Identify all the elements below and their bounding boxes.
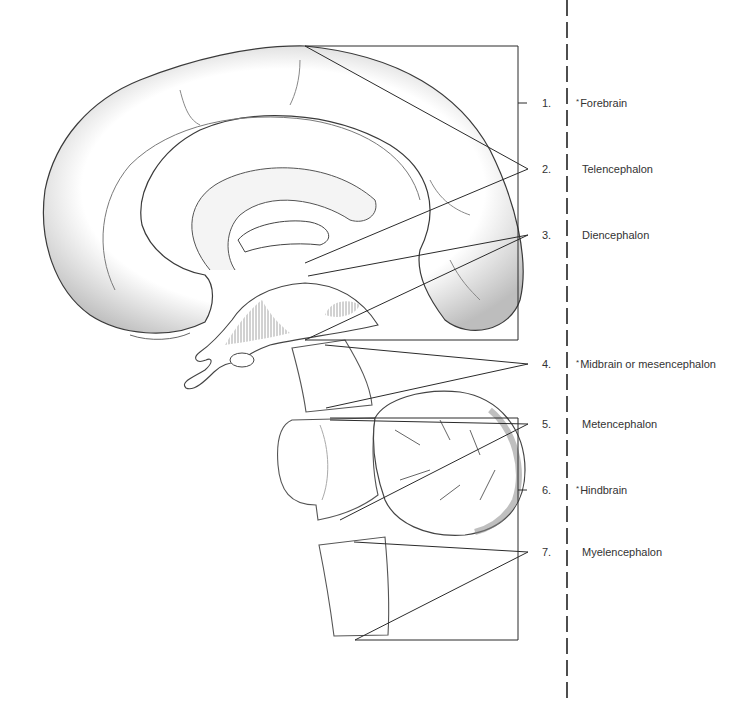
label-midbrain: *Midbrain or mesencephalon — [576, 358, 716, 370]
label-forebrain-text: Forebrain — [580, 97, 627, 109]
label-metencephalon: Metencephalon — [582, 418, 657, 430]
pons-drawing — [278, 418, 378, 520]
cerebellum-drawing — [373, 391, 525, 535]
midbrain-drawing — [292, 340, 372, 412]
label-telencephalon: Telencephalon — [582, 163, 653, 175]
label-hindbrain-text: Hindbrain — [580, 484, 627, 496]
label-number-5: 5. — [542, 418, 551, 430]
label-number-7: 7. — [542, 546, 551, 558]
label-hindbrain: *Hindbrain — [576, 484, 627, 496]
brain-divisions-diagram: 1. *Forebrain 2. Telencephalon 3. Dience… — [0, 0, 743, 703]
label-number-4: 4. — [542, 358, 551, 370]
label-forebrain: *Forebrain — [576, 97, 627, 109]
label-number-2: 2. — [542, 163, 551, 175]
label-number-3: 3. — [542, 229, 551, 241]
medulla-drawing — [319, 537, 389, 636]
label-diencephalon: Diencephalon — [582, 229, 649, 241]
label-midbrain-text: Midbrain or mesencephalon — [580, 358, 716, 370]
label-number-1: 1. — [542, 97, 551, 109]
label-number-6: 6. — [542, 484, 551, 496]
required-star: * — [576, 358, 579, 367]
required-star: * — [576, 484, 579, 493]
label-myelencephalon: Myelencephalon — [582, 546, 662, 558]
required-star: * — [576, 97, 579, 106]
